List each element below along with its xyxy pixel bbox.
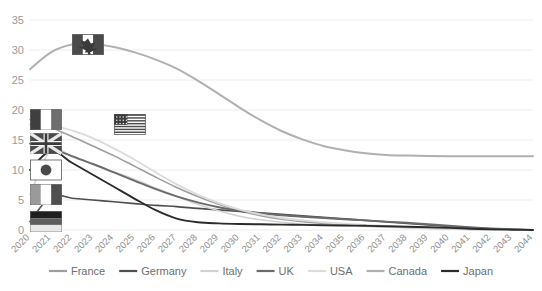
uk-flag-icon — [31, 134, 62, 154]
x-axis-tick-label: 2043 — [491, 232, 514, 255]
series-line-canada[interactable] — [30, 44, 533, 157]
legend-label-japan[interactable]: Japan — [463, 265, 493, 277]
x-axis-tick-label: 2035 — [323, 232, 346, 255]
legend-label-usa[interactable]: USA — [330, 265, 353, 277]
legend-label-canada[interactable]: Canada — [389, 265, 428, 277]
x-axis-tick-label: 2030 — [218, 232, 241, 255]
canada-flag-icon — [72, 35, 103, 55]
legend-label-uk[interactable]: UK — [279, 265, 295, 277]
x-axis-tick-label: 2025 — [113, 232, 136, 255]
star — [126, 119, 128, 121]
stripe — [114, 132, 145, 133]
flag-band-top — [31, 212, 62, 219]
flag-band-left — [31, 185, 41, 205]
y-axis-labels: 05101520253035 — [12, 14, 24, 236]
series-line-france[interactable] — [30, 120, 533, 230]
x-axis-tick-label: 2020 — [9, 232, 32, 255]
legend-label-france[interactable]: France — [71, 265, 105, 277]
y-axis-tick-label: 35 — [12, 14, 24, 26]
y-axis-tick-label: 5 — [18, 194, 24, 206]
x-axis-tick-label: 2040 — [428, 232, 451, 255]
x-axis-tick-label: 2022 — [51, 232, 74, 255]
japan-flag-icon — [31, 160, 62, 180]
x-axis-tick-label: 2029 — [197, 232, 220, 255]
line-chart: 0510152025303520202021202220232024202520… — [0, 0, 542, 291]
x-axis-tick-label: 2027 — [155, 232, 178, 255]
gridlines-group — [30, 20, 533, 230]
germany-flag-icon — [31, 212, 62, 232]
star — [122, 119, 124, 121]
x-axis-tick-label: 2037 — [365, 232, 388, 255]
legend-label-italy[interactable]: Italy — [222, 265, 243, 277]
flag-band-mid — [31, 218, 62, 225]
x-axis-tick-label: 2039 — [407, 232, 430, 255]
stripe — [114, 126, 145, 127]
flag-band-mid — [41, 110, 51, 130]
legend-label-germany[interactable]: Germany — [141, 265, 187, 277]
usa-flag-icon — [114, 114, 145, 134]
star — [119, 119, 121, 121]
x-axis-tick-label: 2034 — [302, 232, 325, 255]
france-flag-icon — [31, 110, 62, 130]
stripe — [114, 129, 145, 130]
x-axis-tick-label: 2021 — [30, 232, 53, 255]
x-axis-labels: 2020202120222023202420252026202720282029… — [9, 232, 535, 255]
y-axis-tick-label: 10 — [12, 164, 24, 176]
x-axis-tick-label: 2023 — [72, 232, 95, 255]
chart-canvas: 0510152025303520202021202220232024202520… — [0, 0, 542, 291]
sun-disc-icon — [41, 165, 52, 176]
flag-band-mid — [41, 185, 51, 205]
star — [116, 116, 118, 118]
star — [122, 123, 124, 125]
x-axis-tick-label: 2026 — [134, 232, 157, 255]
y-axis-tick-label: 30 — [12, 44, 24, 56]
flag-band-right — [93, 35, 103, 55]
flag-band-left — [72, 35, 82, 55]
star — [119, 116, 121, 118]
x-axis-tick-label: 2044 — [512, 232, 535, 255]
flag-band-bottom — [31, 225, 62, 232]
star — [116, 123, 118, 125]
star — [116, 119, 118, 121]
x-axis-tick-label: 2031 — [239, 232, 262, 255]
flag-band-right — [51, 185, 61, 205]
star — [126, 116, 128, 118]
flag-band-right — [51, 110, 61, 130]
legend: FranceGermanyItalyUKUSACanadaJapan — [49, 265, 493, 277]
series-group — [30, 44, 533, 230]
star — [126, 123, 128, 125]
star — [122, 116, 124, 118]
italy-flag-icon — [31, 185, 62, 205]
x-axis-tick-label: 2028 — [176, 232, 199, 255]
x-axis-tick-label: 2024 — [93, 232, 116, 255]
x-axis-tick-label: 2038 — [386, 232, 409, 255]
y-axis-tick-label: 20 — [12, 104, 24, 116]
flag-band-left — [31, 110, 41, 130]
x-axis-tick-label: 2032 — [260, 232, 283, 255]
x-axis-tick-label: 2036 — [344, 232, 367, 255]
y-axis-tick-label: 25 — [12, 74, 24, 86]
flag-markers-group — [31, 35, 146, 232]
x-axis-tick-label: 2033 — [281, 232, 304, 255]
star — [119, 123, 121, 125]
y-axis-tick-label: 15 — [12, 134, 24, 146]
x-axis-tick-label: 2042 — [470, 232, 493, 255]
x-axis-tick-label: 2041 — [449, 232, 472, 255]
